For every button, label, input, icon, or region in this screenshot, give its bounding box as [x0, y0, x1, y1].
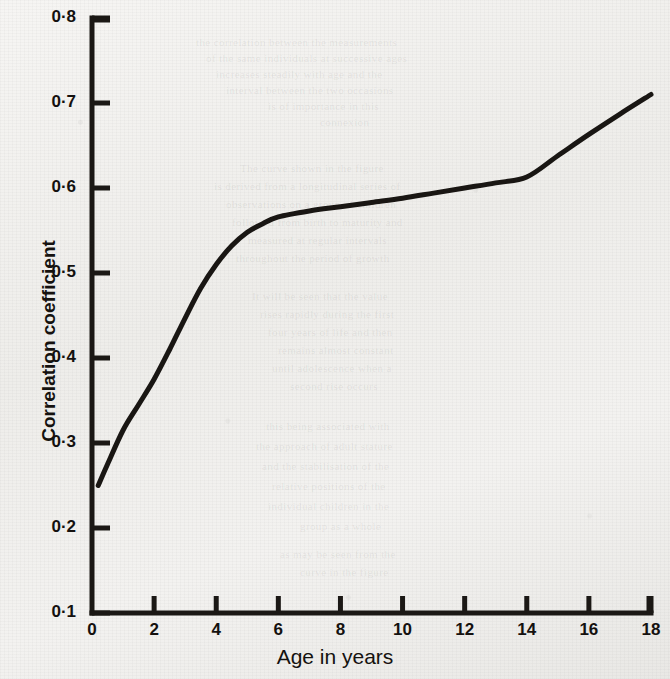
x-axis-tick-label: 4	[199, 620, 233, 640]
x-axis-tick-label: 8	[323, 620, 357, 640]
correlation-vs-age-chart	[0, 0, 670, 679]
x-axis-tick-label: 2	[137, 620, 171, 640]
y-axis-ticks	[92, 18, 110, 613]
x-axis-ticks	[154, 596, 651, 613]
x-axis-tick-label: 10	[386, 620, 420, 640]
x-axis-title: Age in years	[0, 645, 670, 669]
data-curve-group	[98, 95, 651, 486]
x-axis-tick-label: 0	[75, 620, 109, 640]
x-axis-tick-label: 16	[572, 620, 606, 640]
y-axis-title: Correlation coefficient	[38, 211, 60, 471]
x-axis-tick-label: 14	[510, 620, 544, 640]
x-axis-tick-label: 12	[448, 620, 482, 640]
y-axis-tick-label: 0·6	[30, 177, 76, 197]
y-axis-tick-label: 0·7	[30, 92, 76, 112]
y-axis-tick-label: 0·2	[30, 517, 76, 537]
x-axis-tick-label: 6	[261, 620, 295, 640]
y-axis-tick-label: 0·1	[30, 602, 76, 622]
data-line-series-0	[98, 95, 651, 486]
figure-page: the correlation between the measurements…	[0, 0, 670, 679]
x-axis-tick-label: 18	[634, 620, 668, 640]
y-axis-tick-label: 0·8	[30, 7, 76, 27]
